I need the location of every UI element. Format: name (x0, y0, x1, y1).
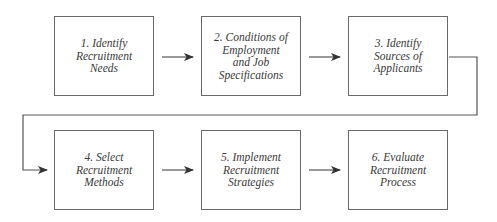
step-1-label: 1. Identify Recruitment Needs (76, 37, 132, 75)
step-2-box: 2. Conditions of Employment and Job Spec… (201, 16, 301, 96)
step-2-label: 2. Conditions of Employment and Job Spec… (214, 31, 288, 81)
step-6-label: 6. Evaluate Recruitment Process (370, 151, 426, 189)
step-3-label: 3. Identify Sources of Applicants (373, 37, 422, 75)
recruitment-process-diagram: 1. Identify Recruitment Needs 2. Conditi… (0, 0, 497, 222)
step-6-box: 6. Evaluate Recruitment Process (348, 130, 448, 210)
step-3-box: 3. Identify Sources of Applicants (348, 16, 448, 96)
step-5-label: 5. Implement Recruitment Strategies (221, 151, 281, 189)
step-5-box: 5. Implement Recruitment Strategies (201, 130, 301, 210)
step-4-label: 4. Select Recruitment Methods (76, 151, 132, 189)
step-4-box: 4. Select Recruitment Methods (54, 130, 154, 210)
step-1-box: 1. Identify Recruitment Needs (54, 16, 154, 96)
